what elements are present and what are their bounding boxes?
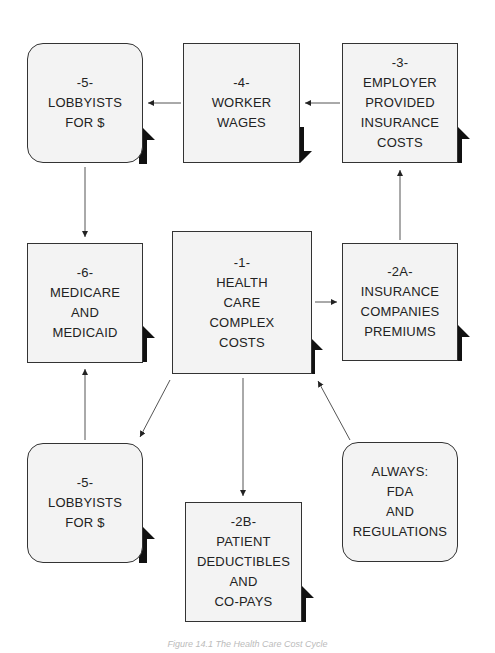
- box-label-line: REGULATIONS: [353, 522, 447, 542]
- box-label-line: COSTS: [377, 133, 423, 153]
- box-label-line: WORKER: [212, 93, 272, 113]
- box-label-line: PATIENT: [216, 532, 270, 552]
- box-label-line: COMPLEX: [210, 313, 275, 333]
- box-label-line: EMPLOYER: [363, 73, 437, 93]
- box-label-line: FDA: [387, 482, 414, 502]
- box-label-line: CO-PAYS: [215, 592, 273, 612]
- box-label-line: COMPANIES: [361, 302, 440, 322]
- box-label-line: AND: [386, 502, 414, 522]
- box-insurance-premiums: -2A- INSURANCE COMPANIES PREMIUMS: [342, 243, 458, 361]
- box-label-line: WAGES: [217, 113, 266, 133]
- box-patient-deductibles: -2B- PATIENT DEDUCTIBLES AND CO-PAYS: [185, 502, 302, 622]
- box-worker-wages: -4- WORKER WAGES: [183, 43, 300, 163]
- box-label-line: MEDICAID: [52, 323, 117, 343]
- box-number: -3-: [392, 53, 409, 73]
- box-health-care: -1- HEALTH CARE COMPLEX COSTS: [172, 231, 312, 374]
- box-always-fda: ALWAYS: FDA AND REGULATIONS: [342, 442, 458, 562]
- box-label-line: AND: [71, 303, 99, 323]
- box-label-line: ALWAYS:: [372, 462, 429, 482]
- box-label-line: INSURANCE: [361, 113, 439, 133]
- box-employer-costs: -3- EMPLOYER PROVIDED INSURANCE COSTS: [342, 43, 458, 163]
- box-label-line: FOR $: [65, 513, 104, 533]
- box-number: -5-: [77, 73, 94, 93]
- box-label-line: PROVIDED: [365, 93, 435, 113]
- box-label-line: LOBBYISTS: [48, 93, 122, 113]
- box-number: -2B-: [231, 512, 256, 532]
- box-number: -2A-: [387, 262, 412, 282]
- box-label-line: HEALTH: [216, 273, 268, 293]
- box-lobbyists-bottom: -5- LOBBYISTS FOR $: [27, 443, 143, 563]
- box-label-line: MEDICARE: [50, 283, 120, 303]
- box-label-line: AND: [229, 572, 257, 592]
- box-label-line: LOBBYISTS: [48, 493, 122, 513]
- box-label-line: COSTS: [219, 333, 265, 353]
- box-label-line: PREMIUMS: [364, 322, 436, 342]
- box-label-line: CARE: [224, 293, 261, 313]
- figure-caption: Figure 14.1 The Health Care Cost Cycle: [0, 639, 495, 649]
- box-number: -4-: [233, 73, 250, 93]
- arrow-fda-to-health: [318, 381, 350, 440]
- box-number: -6-: [77, 263, 94, 283]
- box-label-line: DEDUCTIBLES: [197, 552, 290, 572]
- arrow-health-to-lobbyists: [140, 380, 170, 437]
- box-number: -1-: [234, 253, 251, 273]
- box-medicare: -6- MEDICARE AND MEDICAID: [27, 243, 143, 363]
- box-number: -5-: [77, 473, 94, 493]
- box-label-line: INSURANCE: [361, 282, 439, 302]
- box-label-line: FOR $: [65, 113, 104, 133]
- box-lobbyists-top: -5- LOBBYISTS FOR $: [27, 43, 143, 163]
